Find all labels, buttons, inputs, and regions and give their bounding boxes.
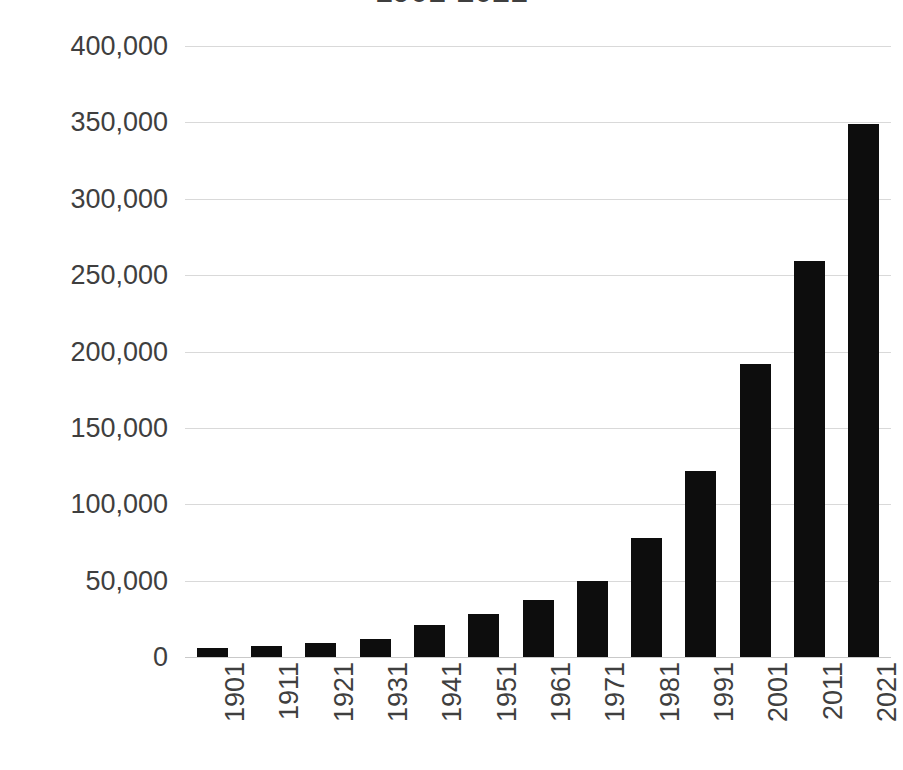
- bar-1901[interactable]: [197, 648, 228, 657]
- y-axis-tick-label: 400,000: [0, 33, 168, 60]
- x-axis-tick-1941: 1941: [439, 662, 466, 722]
- x-axis: 1901191119211931194119511961197119811991…: [185, 662, 891, 770]
- y-axis-tick-label: 200,000: [0, 338, 168, 365]
- x-axis-tick-label: 2021: [874, 662, 901, 722]
- bar-1981[interactable]: [631, 538, 662, 657]
- y-axis-tick-label: 0: [0, 644, 168, 671]
- x-axis-tick-label: 1971: [602, 662, 629, 722]
- x-axis-tick-label: 1941: [439, 662, 466, 722]
- x-axis-tick-1981: 1981: [657, 662, 684, 722]
- x-axis-tick-label: 1981: [657, 662, 684, 722]
- x-axis-tick-label: 1991: [711, 662, 738, 722]
- y-axis-tick-label: 300,000: [0, 185, 168, 212]
- bar-2021[interactable]: [848, 124, 879, 657]
- y-axis: 050,000100,000150,000200,000250,000300,0…: [0, 46, 168, 657]
- x-axis-tick-label: 1921: [331, 662, 358, 722]
- chart-title: 1901-2021: [0, 0, 903, 10]
- bar-1931[interactable]: [360, 639, 391, 657]
- bar-2001[interactable]: [740, 364, 771, 657]
- x-axis-tick-label: 1931: [385, 662, 412, 722]
- x-axis-tick-1961: 1961: [548, 662, 575, 722]
- x-axis-tick-label: 1901: [222, 662, 249, 722]
- y-axis-tick-label: 350,000: [0, 109, 168, 136]
- gridline-0: [185, 657, 891, 658]
- y-axis-tick-label: 100,000: [0, 491, 168, 518]
- bar-1971[interactable]: [577, 581, 608, 657]
- bar-2011[interactable]: [794, 261, 825, 657]
- bar-1961[interactable]: [523, 600, 554, 657]
- y-axis-tick-label: 150,000: [0, 414, 168, 441]
- bar-chart: 1901-2021 050,000100,000150,000200,00025…: [0, 0, 903, 770]
- x-axis-tick-1901: 1901: [222, 662, 249, 722]
- x-axis-tick-1951: 1951: [494, 662, 521, 722]
- bar-1941[interactable]: [414, 625, 445, 657]
- bar-1951[interactable]: [468, 614, 499, 657]
- x-axis-tick-label: 1951: [494, 662, 521, 722]
- bar-1921[interactable]: [305, 643, 336, 658]
- x-axis-tick-label: 1961: [548, 662, 575, 722]
- bar-1991[interactable]: [685, 471, 716, 657]
- x-axis-tick-2001: 2001: [765, 662, 792, 722]
- x-axis-tick-1921: 1921: [331, 662, 358, 722]
- x-axis-tick-label: 2001: [765, 662, 792, 722]
- x-axis-tick-1991: 1991: [711, 662, 738, 722]
- x-axis-tick-label: 1911: [276, 662, 303, 720]
- x-axis-tick-label: 2011: [820, 662, 847, 720]
- x-axis-tick-1971: 1971: [602, 662, 629, 722]
- y-axis-tick-label: 250,000: [0, 262, 168, 289]
- bars-layer: [185, 46, 891, 657]
- x-axis-tick-1911: 1911: [276, 662, 303, 720]
- x-axis-tick-1931: 1931: [385, 662, 412, 722]
- x-axis-tick-2011: 2011: [820, 662, 847, 720]
- bar-1911[interactable]: [251, 646, 282, 657]
- y-axis-tick-label: 50,000: [0, 567, 168, 594]
- x-axis-tick-2021: 2021: [874, 662, 901, 722]
